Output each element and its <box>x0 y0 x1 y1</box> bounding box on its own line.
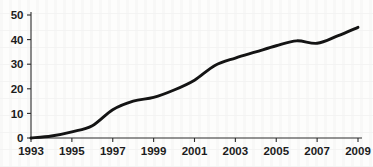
y-tick-label: 30 <box>11 58 24 70</box>
x-tick-label: 1997 <box>100 145 126 157</box>
data-series-line <box>31 27 358 138</box>
y-tick-label: 0 <box>17 132 23 144</box>
y-tick-label: 50 <box>11 9 24 21</box>
y-tick-label: 10 <box>11 108 24 120</box>
y-tick-label: 40 <box>11 34 24 46</box>
x-tick-label: 2005 <box>263 145 289 157</box>
x-tick-label: 2009 <box>345 145 371 157</box>
x-tick-label: 2007 <box>304 145 330 157</box>
x-tick-label: 1995 <box>59 145 85 157</box>
x-tick-label: 2003 <box>223 145 249 157</box>
chart-plot-area: 01020304050 1993199519971999200120032005… <box>0 0 373 167</box>
line-chart: 01020304050 1993199519971999200120032005… <box>0 0 373 167</box>
y-tick-label: 20 <box>11 83 24 95</box>
x-axis-ticks <box>31 138 358 142</box>
x-axis-tick-labels: 199319951997199920012003200520072009 <box>18 145 371 157</box>
x-tick-label: 2001 <box>182 145 208 157</box>
y-axis-tick-labels: 01020304050 <box>11 9 24 144</box>
x-tick-label: 1999 <box>141 145 167 157</box>
y-axis-ticks <box>27 15 31 138</box>
x-tick-label: 1993 <box>18 145 44 157</box>
